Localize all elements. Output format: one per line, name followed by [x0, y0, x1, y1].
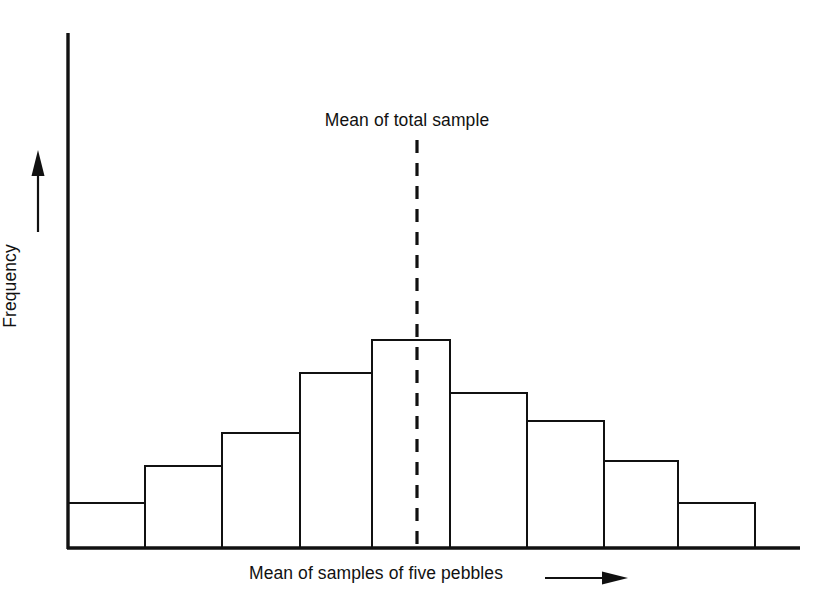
histogram-bar — [68, 503, 145, 548]
histogram-bar — [604, 461, 678, 548]
x-axis-label: Mean of samples of five pebbles — [0, 563, 788, 584]
histogram-chart — [0, 0, 824, 611]
histogram-bar — [300, 373, 372, 548]
y-axis-label: Frequency — [0, 244, 21, 328]
histogram-bar — [527, 421, 604, 548]
arrow-up-icon — [32, 150, 45, 232]
histogram-bar — [678, 503, 755, 548]
histogram-figure: Mean of total sample Mean of samples of … — [0, 0, 824, 611]
histogram-bar — [450, 393, 527, 548]
histogram-bar — [372, 340, 450, 548]
mean-of-total-sample-label: Mean of total sample — [0, 110, 819, 131]
histogram-bar — [222, 433, 300, 548]
histogram-bars — [68, 340, 755, 548]
histogram-bar — [145, 466, 222, 548]
